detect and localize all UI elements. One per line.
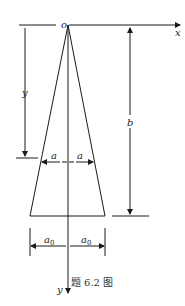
x-axis-label: x [175, 27, 181, 38]
diagram-canvas: o x y y a a b a0 a0 题 6.2 图 [0, 0, 185, 306]
half-width-label-left: a [51, 150, 57, 161]
depth-label-y: y [21, 87, 28, 98]
figure-caption: 题 6.2 图 [71, 277, 113, 288]
origin-label: o [61, 19, 67, 30]
half-width-label-right: a [77, 150, 83, 161]
half-base-label-left: a0 [44, 234, 54, 247]
height-label-b: b [127, 117, 133, 128]
y-axis-label: y [56, 284, 63, 295]
half-base-label-right: a0 [81, 234, 91, 247]
